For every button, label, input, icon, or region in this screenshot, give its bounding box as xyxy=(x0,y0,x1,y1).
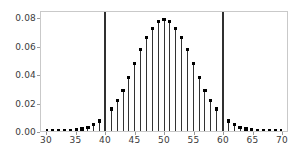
data-point-marker xyxy=(233,123,236,126)
y-tick-label: 0.08 xyxy=(15,13,36,23)
y-tick-label: 0.04 xyxy=(15,70,36,80)
data-point-marker xyxy=(69,129,72,131)
x-tick-label: 70 xyxy=(276,135,288,145)
x-tick-mark xyxy=(253,132,254,135)
stem-plot-canvas xyxy=(41,12,287,131)
data-point-marker xyxy=(116,99,119,102)
x-tick-label: 30 xyxy=(40,135,52,145)
data-point-marker xyxy=(157,20,160,23)
x-tick-mark xyxy=(282,132,283,135)
data-point-marker xyxy=(110,107,113,110)
data-point-marker xyxy=(168,20,171,23)
x-tick-mark xyxy=(194,132,195,135)
x-tick-label: 65 xyxy=(247,135,259,145)
data-point-marker xyxy=(151,27,154,30)
data-point-marker xyxy=(63,129,66,131)
data-point-marker xyxy=(98,119,101,122)
y-tick-mark xyxy=(37,132,40,133)
data-point-marker xyxy=(250,128,253,131)
data-point-marker xyxy=(86,126,89,129)
x-tick-label: 60 xyxy=(217,135,229,145)
data-point-marker xyxy=(203,89,206,92)
data-point-marker xyxy=(121,89,124,92)
data-point-marker xyxy=(46,129,49,131)
x-tick-mark xyxy=(135,132,136,135)
data-point-marker xyxy=(145,36,148,39)
data-point-marker xyxy=(133,62,136,65)
y-axis: 0.000.020.040.060.08 xyxy=(0,0,36,154)
data-point-marker xyxy=(139,48,142,51)
y-tick-mark xyxy=(37,18,40,19)
data-point-marker xyxy=(127,76,130,79)
data-point-marker xyxy=(51,129,54,131)
plot-area xyxy=(40,11,288,132)
data-point-marker xyxy=(174,27,177,30)
data-point-marker xyxy=(186,48,189,51)
data-point-marker xyxy=(256,129,259,131)
x-tick-mark xyxy=(223,132,224,135)
data-point-marker xyxy=(274,129,277,131)
data-point-marker xyxy=(227,119,230,122)
x-tick-mark xyxy=(164,132,165,135)
chart-figure: 0.000.020.040.060.08 303540455055606570 xyxy=(0,0,306,154)
data-point-marker xyxy=(75,128,78,131)
data-point-marker xyxy=(180,36,183,39)
y-tick-mark xyxy=(37,75,40,76)
x-tick-mark xyxy=(76,132,77,135)
data-point-marker xyxy=(80,127,83,130)
data-point-marker xyxy=(268,129,271,131)
y-tick-mark xyxy=(37,47,40,48)
data-point-marker xyxy=(280,129,283,131)
x-tick-label: 50 xyxy=(158,135,170,145)
data-point-marker xyxy=(92,123,95,126)
data-point-marker xyxy=(215,107,218,110)
y-tick-mark xyxy=(37,104,40,105)
y-tick-label: 0.02 xyxy=(15,99,36,109)
x-tick-mark xyxy=(46,132,47,135)
data-point-marker xyxy=(244,127,247,130)
x-tick-label: 35 xyxy=(70,135,82,145)
x-axis: 303540455055606570 xyxy=(0,135,306,153)
data-point-marker xyxy=(192,62,195,65)
x-tick-mark xyxy=(105,132,106,135)
x-tick-label: 40 xyxy=(99,135,111,145)
y-tick-label: 0.06 xyxy=(15,42,36,52)
data-point-marker xyxy=(262,129,265,131)
x-tick-label: 55 xyxy=(188,135,200,145)
data-point-marker xyxy=(162,18,165,21)
data-point-marker xyxy=(198,76,201,79)
data-point-marker xyxy=(57,129,60,131)
data-point-marker xyxy=(238,126,241,129)
data-point-marker xyxy=(209,99,212,102)
x-tick-label: 45 xyxy=(129,135,141,145)
